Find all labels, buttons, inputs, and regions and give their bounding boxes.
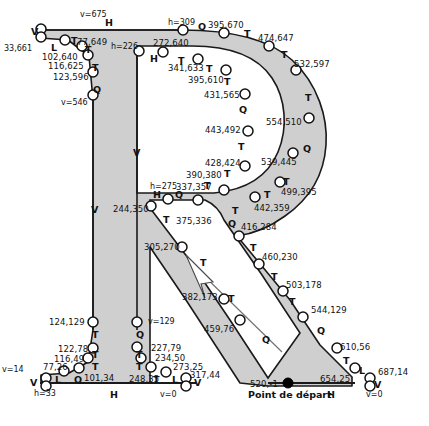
node-coordinate-label: 428,424 [205,159,241,168]
segment-type-tag-t: T [305,93,312,103]
node-coordinate-label: 341,633 [168,64,204,73]
segment-type-tag-t: T [283,177,290,187]
node-coordinate-label: v=0 [160,391,177,399]
node-coordinate-label: 654,25 [320,375,350,384]
node-coordinate-label: 503,178 [286,281,322,290]
segment-type-tag-q: Q [303,144,311,154]
segment-type-tag-t: T [85,45,92,55]
segment-type-tag-h: H [153,190,161,200]
node-coordinate-label: 459,76 [204,325,234,334]
segment-type-tag-t: T [204,181,211,191]
node-coordinate-label: 123,596 [53,73,89,82]
node-coordinate-label: 460,230 [262,253,298,262]
node-coordinate-label: 499,395 [281,188,317,197]
node-coordinate-label: 33,661 [4,45,32,53]
segment-type-tag-l: L [55,375,61,385]
node-coordinate-label: 474,647 [258,34,294,43]
segment-type-tag-v: V [31,27,39,37]
segment-type-tag-v: V [194,378,202,388]
node-coordinate-label: 244,350 [113,205,149,214]
segment-type-tag-t: T [224,169,231,179]
node-coordinate-label: 77,649 [77,38,107,47]
segment-type-tag-q: Q [228,219,236,229]
segment-type-tag-h: H [105,18,113,28]
segment-type-tag-q: Q [136,330,144,340]
node-coordinate-label: 395,610 [188,76,224,85]
segment-type-tag-t: T [92,350,99,360]
node-coordinate-label: 442,359 [254,204,290,213]
segment-type-tag-h: H [150,54,158,64]
start-point-caption: Point de départ [248,389,332,400]
segment-type-tag-t: T [178,56,185,66]
segment-type-tag-l: L [359,366,365,376]
segment-type-tag-q: Q [239,105,247,115]
segment-type-tag-t: T [153,375,160,385]
node-coordinate-label: 116,625 [48,62,84,71]
node-coordinate-label: 382,173 [182,293,218,302]
segment-type-tag-t: T [92,362,99,372]
node-coordinate-label: 443,492 [205,126,241,135]
node-coordinate-label: v=14 [2,366,24,374]
segment-type-tag-t: T [264,190,271,200]
segment-type-tag-h: H [110,390,118,400]
segment-type-tag-t: T [136,350,143,360]
segment-type-tag-q: Q [74,375,82,385]
segment-type-tag-q: Q [175,190,183,200]
segment-type-tag-v: V [91,205,99,215]
node-coordinate-label: v=675 [80,11,107,19]
segment-type-tag-t: T [343,356,350,366]
node-coordinate-label: 554,510 [266,118,302,127]
node-coordinate-label: 395,670 [208,21,244,30]
segment-type-tag-t: T [232,206,239,216]
node-coordinate-label: 124,129 [49,318,85,327]
segment-type-tag-q: Q [198,22,206,32]
node-coordinate-label: 375,336 [176,217,212,226]
node-coordinate-label: v=546 [61,99,88,107]
node-coordinate-label: 544,129 [311,306,347,315]
segment-type-tag-t: T [281,50,288,60]
segment-type-tag-t: T [92,63,99,73]
node-coordinate-label: 390,380 [186,171,222,180]
node-coordinate-label: v=0 [366,391,383,399]
segment-type-tag-q: Q [93,85,101,95]
segment-type-tag-l: L [51,43,57,53]
segment-type-tag-t: T [200,258,207,268]
segment-type-tag-t: T [92,330,99,340]
segment-type-tag-t: T [289,297,296,307]
segment-type-tag-q: Q [317,326,325,336]
segment-type-tag-t: T [238,142,245,152]
node-coordinate-label: v=129 [148,318,175,326]
node-coordinate-label: 520,-1 [250,380,278,389]
node-coordinate-label: 687,14 [378,368,408,377]
node-coordinate-label: 539,445 [261,158,297,167]
node-coordinate-label: 532,597 [294,60,330,69]
node-coordinate-label: 416,284 [241,223,277,232]
node-coordinate-label: 122,78 [58,345,88,354]
segment-type-tag-t: T [224,77,231,87]
node-coordinate-label: 305,270 [144,243,180,252]
segment-type-tag-v: V [30,378,38,388]
figure-canvas: v=67533,66177,649102,640116,625123,596v=… [0,0,429,426]
segment-type-tag-t: T [271,272,278,282]
segment-type-tag-l: L [172,375,178,385]
node-coordinate-label: 227,79 [151,344,181,353]
node-coordinate-label: 610,56 [340,343,370,352]
node-coordinate-label: h=33 [34,390,56,398]
segment-type-tag-t: T [163,215,170,225]
segment-type-tag-v: V [374,380,382,390]
segment-type-tag-v: V [133,148,141,158]
segment-type-tag-t: T [206,64,213,74]
node-coordinate-label: 101,34 [84,374,114,383]
node-coordinate-label: 77,26 [43,363,68,372]
segment-type-tag-t: T [244,29,251,39]
segment-type-tag-t: T [71,36,78,46]
segment-type-tag-t: T [250,243,257,253]
segment-type-tag-t: T [228,294,235,304]
node-coordinate-label: h=226 [111,43,138,51]
segment-type-tag-q: Q [262,335,270,345]
node-coordinate-label: 272,640 [153,39,189,48]
segment-type-tag-t: T [136,362,143,372]
node-coordinate-label: 431,565 [204,91,240,100]
node-coordinate-label: h=309 [168,19,195,27]
